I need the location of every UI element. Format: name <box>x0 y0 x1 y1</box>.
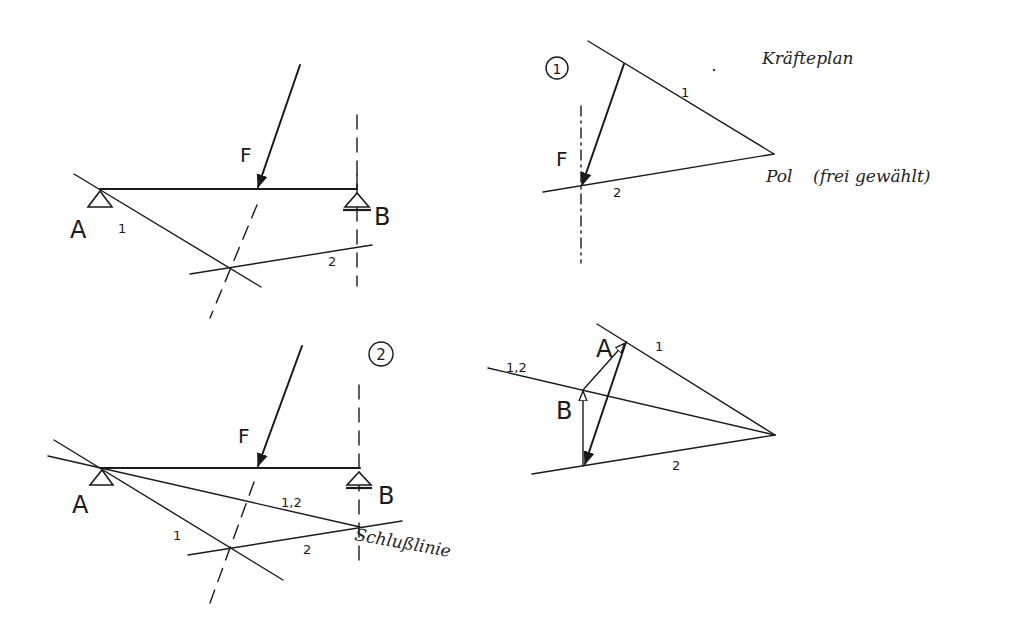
funicular-ray-1 <box>74 174 261 287</box>
ray-2-label: 2 <box>303 542 311 557</box>
polar-ray-1-label: 1 <box>681 85 689 100</box>
polar-ray-1-label: 1 <box>655 339 663 354</box>
drawing-canvas: F A B 1 2 1 Kräfteplan 1 2 F Pol (frei g… <box>0 0 1017 636</box>
force-f-label: F <box>238 424 250 448</box>
reaction-a-label: A <box>596 335 613 363</box>
force-f-line-of-action <box>210 205 257 318</box>
closing-ray <box>488 368 775 435</box>
support-b-label: B <box>374 203 390 231</box>
kraefteplan-2: 1 2 1,2 B A <box>488 324 775 474</box>
force-f-vector <box>582 64 624 185</box>
polar-ray-2-label: 2 <box>613 185 621 200</box>
force-f-arrow <box>258 65 300 187</box>
funicular-ray-2 <box>190 245 372 274</box>
force-f-label: F <box>240 143 252 167</box>
kraefteplan-1: 1 Kräfteplan 1 2 F Pol (frei gewählt) <box>543 41 930 263</box>
ray-2-label: 2 <box>328 254 336 269</box>
svg-text:1: 1 <box>553 61 562 77</box>
lageplan-1: F A B 1 2 <box>70 65 390 318</box>
support-a-label: A <box>72 491 89 519</box>
support-a-icon <box>88 191 112 207</box>
lageplan-2: 2 F A B 1 2 1,2 Schlußlinie <box>48 342 452 603</box>
stray-dot <box>713 69 715 71</box>
step-marker-1: 1 <box>546 57 568 79</box>
support-b-label: B <box>378 482 394 510</box>
polar-ray-2 <box>543 154 774 192</box>
closing-line-name: Schlußlinie <box>353 524 452 561</box>
closing-line <box>48 456 360 527</box>
kraefteplan-title: Kräfteplan <box>761 48 854 68</box>
support-b-icon <box>343 193 371 210</box>
ray-1-label: 1 <box>173 528 181 543</box>
force-f-vector-label: F <box>556 147 568 171</box>
pole-label: Pol <box>765 166 792 186</box>
force-f-line-of-action <box>210 482 254 603</box>
polar-ray-2 <box>532 435 775 474</box>
support-a-label: A <box>70 216 87 244</box>
polar-ray-1 <box>597 324 775 435</box>
pole-note: (frei gewählt) <box>813 166 930 186</box>
force-f-arrow <box>258 346 302 466</box>
svg-text:2: 2 <box>376 346 386 364</box>
support-a-icon <box>90 470 113 485</box>
ray-1-label: 1 <box>118 221 126 236</box>
closing-line-label: 1,2 <box>281 495 302 510</box>
reaction-b-label: B <box>556 397 572 425</box>
closing-ray-label: 1,2 <box>506 360 527 375</box>
support-b-icon <box>346 472 372 488</box>
polar-ray-2-label: 2 <box>672 458 680 473</box>
step-marker-2: 2 <box>369 342 393 366</box>
